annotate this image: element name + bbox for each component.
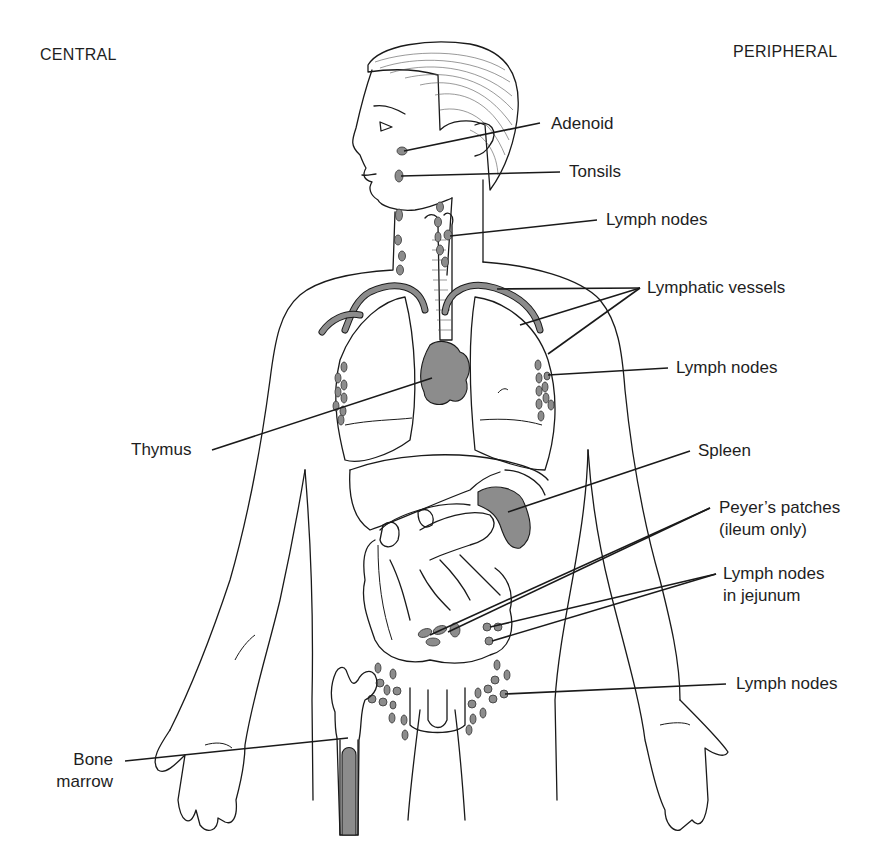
- label-adenoid: Adenoid: [551, 113, 613, 135]
- label-spleen: Spleen: [698, 440, 751, 462]
- label-bone-marrow: Bone marrow: [40, 749, 113, 793]
- label-lymph-nodes-axillary: Lymph nodes: [676, 357, 777, 379]
- label-lymph-nodes-neck: Lymph nodes: [606, 209, 707, 231]
- thymus-organ: [421, 341, 470, 404]
- neck-lymph-nodes: [395, 202, 453, 275]
- label-bone-marrow-line2: marrow: [40, 771, 113, 793]
- body-outline: [155, 212, 728, 830]
- label-peyers-patches-line2: (ileum only): [719, 519, 840, 541]
- spleen-organ: [478, 487, 530, 548]
- label-lymphatic-vessels: Lymphatic vessels: [647, 277, 785, 299]
- label-lymph-nodes-jejunum-line2: in jejunum: [723, 585, 824, 607]
- label-thymus: Thymus: [131, 439, 191, 461]
- head: [353, 70, 494, 275]
- label-bone-marrow-line1: Bone: [40, 749, 113, 771]
- bone-marrow-organ: [342, 748, 356, 836]
- label-lymph-nodes-jejunum-line1: Lymph nodes: [723, 563, 824, 585]
- peyers-patches: [417, 623, 460, 646]
- label-peyers-patches-line1: Peyer’s patches: [719, 497, 840, 519]
- label-tonsils: Tonsils: [569, 161, 621, 183]
- label-peyers-patches: Peyer’s patches (ileum only): [719, 497, 840, 541]
- label-lymph-nodes-inguinal: Lymph nodes: [736, 673, 837, 695]
- label-lymph-nodes-jejunum: Lymph nodes in jejunum: [723, 563, 824, 607]
- lymphatic-system-figure: [0, 0, 891, 849]
- hair: [368, 42, 518, 190]
